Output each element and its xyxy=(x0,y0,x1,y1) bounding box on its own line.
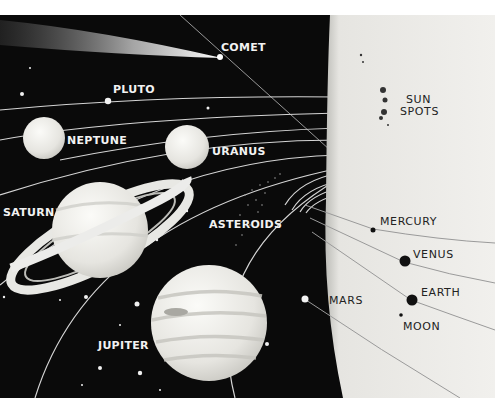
label-earth: EARTH xyxy=(421,287,460,298)
venus xyxy=(400,256,411,267)
comet-head xyxy=(217,54,223,60)
label-jupiter: JUPITER xyxy=(98,340,149,351)
label-uranus: URANUS xyxy=(212,146,266,157)
label-mercury: MERCURY xyxy=(380,216,437,227)
label-pluto: PLUTO xyxy=(113,84,155,95)
jupiter xyxy=(151,265,267,381)
solar-system-illustration: COMET PLUTO NEPTUNE URANUS SATURN ASTERO… xyxy=(0,0,503,408)
pluto xyxy=(105,98,111,104)
label-mars: MARS xyxy=(329,295,363,306)
label-asteroids: ASTEROIDS xyxy=(209,219,282,230)
label-moon: MOON xyxy=(403,321,440,332)
illustration-canvas xyxy=(0,0,503,408)
label-saturn: SATURN xyxy=(3,207,55,218)
label-sun-spots-line1: SUN xyxy=(406,94,431,105)
sun xyxy=(325,15,495,398)
mars xyxy=(302,296,309,303)
mercury xyxy=(371,228,376,233)
label-sun-spots-line2: SPOTS xyxy=(400,106,439,117)
uranus xyxy=(165,125,209,169)
earth xyxy=(407,295,418,306)
neptune xyxy=(23,117,65,159)
label-comet: COMET xyxy=(221,42,266,53)
label-venus: VENUS xyxy=(413,249,454,260)
moon xyxy=(399,313,403,317)
label-neptune: NEPTUNE xyxy=(67,135,127,146)
